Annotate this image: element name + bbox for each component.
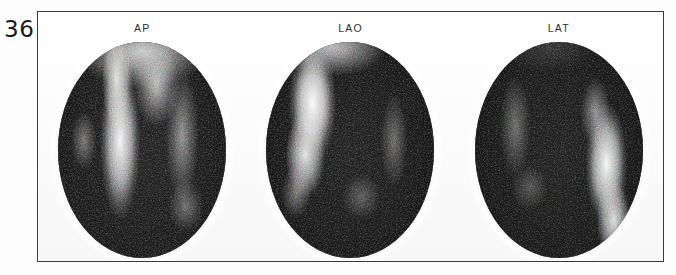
scan-panel-lat: LAT	[455, 12, 663, 261]
scintigram-lat	[475, 42, 643, 258]
scan-label-lat: LAT	[455, 23, 663, 34]
scintigram-ap	[58, 42, 226, 258]
page-number: 36	[4, 18, 34, 41]
scintigram-speckle-lao	[266, 42, 434, 258]
scan-label-lao: LAO	[246, 23, 454, 34]
scintigram-speckle-lat	[475, 42, 643, 258]
figure-plate: AP	[37, 11, 664, 262]
scintigram-image-lao	[266, 42, 434, 258]
figure-plate-background: AP	[38, 12, 663, 261]
scan-panel-lao: LAO	[246, 12, 454, 261]
scintigram-image-ap	[58, 42, 226, 258]
scintigram-image-lat	[475, 42, 643, 258]
scan-label-ap: AP	[38, 23, 246, 34]
scintigram-lao	[266, 42, 434, 258]
scintigram-speckle-ap	[58, 42, 226, 258]
scan-panel-ap: AP	[38, 12, 246, 261]
figure-page: 36 AP	[0, 0, 676, 275]
